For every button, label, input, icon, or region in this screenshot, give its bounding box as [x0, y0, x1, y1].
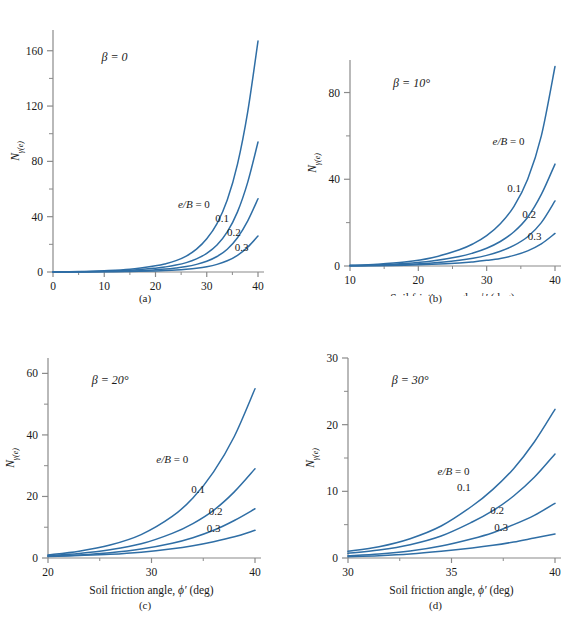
- series-label: 0.2: [522, 208, 536, 220]
- series-curve: [53, 142, 258, 272]
- series-label: 0.2: [227, 226, 241, 238]
- y-tick-label: 10: [327, 485, 339, 497]
- y-tick-label: 60: [27, 367, 39, 379]
- beta-annotation: β = 0: [100, 50, 127, 64]
- series-curve: [48, 530, 255, 556]
- x-axis-label: Soil friction angle, ϕ′ (deg): [389, 584, 514, 597]
- series-label: 0.2: [490, 504, 504, 516]
- x-tick-label: 10: [99, 280, 111, 292]
- x-tick-label: 20: [42, 566, 54, 578]
- y-tick-label: 80: [329, 87, 341, 99]
- chart-panel-c: 2030400204060Nγ(e)Soil friction angle, ϕ…: [0, 310, 290, 619]
- series-label: e/B = 0: [178, 198, 210, 210]
- y-tick-label: 0: [32, 552, 38, 564]
- chart-svg-a: 01020304004080120160Nγ(e)Soil friction a…: [0, 0, 290, 296]
- y-tick-label: 20: [27, 490, 39, 502]
- y-axis-label: Nγ(e): [306, 153, 322, 174]
- series-curve: [348, 409, 555, 551]
- series-curve: [48, 509, 255, 556]
- x-axis-label: Soil friction angle, ϕ′ (deg): [89, 584, 214, 597]
- y-tick-label: 80: [32, 155, 44, 167]
- series-label: e/B = 0: [438, 465, 470, 477]
- x-tick-label: 20: [413, 274, 425, 286]
- chart-panel-d: 3035400102030Nγ(e)Soil friction angle, ϕ…: [290, 310, 581, 619]
- series-label: 0.2: [209, 505, 223, 517]
- beta-annotation: β = 30°: [391, 373, 429, 387]
- panel-caption-d: (d): [290, 599, 581, 611]
- beta-annotation: β = 20°: [91, 373, 129, 387]
- series-curve: [48, 389, 255, 555]
- y-tick-label: 0: [332, 552, 338, 564]
- x-tick-label: 40: [549, 566, 561, 578]
- y-tick-label: 120: [26, 100, 44, 112]
- series-label: 0.1: [215, 212, 229, 224]
- series-curve: [348, 503, 555, 555]
- x-tick-label: 0: [50, 280, 56, 292]
- x-tick-label: 40: [252, 280, 264, 292]
- x-tick-label: 20: [150, 280, 162, 292]
- svg-text:Nγ(e): Nγ(e): [9, 141, 25, 162]
- chart-panel-a: 01020304004080120160Nγ(e)Soil friction a…: [0, 0, 290, 310]
- y-axis-label: Nγ(e): [4, 448, 20, 469]
- x-tick-label: 40: [249, 566, 261, 578]
- y-tick-label: 40: [32, 211, 44, 223]
- series-label: 0.3: [528, 230, 542, 242]
- svg-text:Nγ(e): Nγ(e): [306, 153, 322, 174]
- series-label: 0.1: [507, 182, 521, 194]
- svg-text:Nγ(e): Nγ(e): [304, 448, 320, 469]
- series-label: e/B = 0: [156, 453, 188, 465]
- y-tick-label: 40: [329, 173, 341, 185]
- beta-annotation: β = 10°: [392, 76, 430, 90]
- x-tick-label: 30: [201, 280, 213, 292]
- series-curve: [53, 236, 258, 272]
- chart-panel-b: 1020304004080Nγ(e)Soil friction angle, ϕ…: [290, 0, 581, 310]
- y-tick-label: 20: [327, 419, 339, 431]
- figure-panel-grid: 01020304004080120160Nγ(e)Soil friction a…: [0, 0, 581, 619]
- x-tick-label: 40: [549, 274, 561, 286]
- panel-caption-a: (a): [0, 292, 290, 304]
- x-tick-label: 30: [481, 274, 493, 286]
- y-tick-label: 0: [37, 266, 43, 278]
- y-tick-label: 30: [327, 352, 339, 364]
- x-tick-label: 30: [342, 566, 354, 578]
- chart-svg-c: 2030400204060Nγ(e)Soil friction angle, ϕ…: [0, 310, 290, 600]
- series-label: 0.3: [494, 521, 508, 533]
- y-axis-label: Nγ(e): [304, 448, 320, 469]
- chart-svg-d: 3035400102030Nγ(e)Soil friction angle, ϕ…: [290, 310, 581, 600]
- series-label: 0.1: [457, 481, 471, 493]
- series-label: 0.1: [191, 483, 205, 495]
- svg-text:Nγ(e): Nγ(e): [4, 448, 20, 469]
- series-label: e/B = 0: [493, 135, 525, 147]
- series-label: 0.3: [207, 522, 221, 534]
- chart-svg-b: 1020304004080Nγ(e)Soil friction angle, ϕ…: [290, 0, 581, 296]
- y-tick-label: 40: [27, 429, 39, 441]
- series-curve: [350, 67, 555, 266]
- y-axis-label: Nγ(e): [9, 141, 25, 162]
- x-tick-label: 35: [446, 566, 458, 578]
- panel-caption-c: (c): [0, 599, 290, 611]
- panel-caption-b: (b): [290, 292, 581, 304]
- x-tick-label: 10: [344, 274, 356, 286]
- y-tick-label: 160: [26, 45, 44, 57]
- y-tick-label: 0: [334, 260, 340, 272]
- x-tick-label: 30: [146, 566, 158, 578]
- series-curve: [48, 469, 255, 556]
- series-label: 0.3: [235, 241, 249, 253]
